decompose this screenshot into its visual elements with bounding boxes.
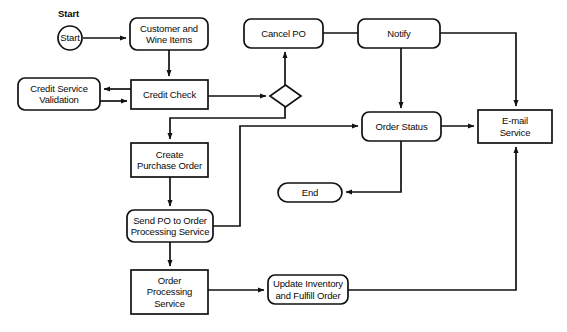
node-customer-and-wine-items[interactable] xyxy=(130,18,208,50)
node-start[interactable] xyxy=(58,26,82,50)
node-decision[interactable] xyxy=(270,85,301,107)
node-create-purchase-order[interactable] xyxy=(131,143,208,177)
node-end[interactable] xyxy=(278,183,342,202)
node-notify[interactable] xyxy=(358,19,440,48)
flowchart-canvas: StartCustomer and Wine ItemsCredit Servi… xyxy=(0,0,567,332)
node-credit-check[interactable] xyxy=(131,80,208,109)
edge-notify-to-email-service xyxy=(440,33,516,106)
node-email-service[interactable] xyxy=(478,110,552,143)
edge-decision-to-create-purchase-order xyxy=(170,107,285,139)
edge-send-po-to-order-status xyxy=(213,126,358,226)
start-label: Start xyxy=(58,8,79,19)
node-order-status[interactable] xyxy=(362,112,441,141)
edge-order-status-to-end xyxy=(346,141,401,192)
node-order-processing-service[interactable] xyxy=(131,270,208,314)
node-send-po-to-order-processing-service[interactable] xyxy=(127,210,213,242)
flowchart-connectors-layer xyxy=(0,0,567,332)
node-cancel-po[interactable] xyxy=(244,19,323,48)
edge-update-inventory-to-email-service xyxy=(348,147,516,290)
node-update-inventory-and-fulfill-order[interactable] xyxy=(268,275,348,304)
node-credit-service-validation[interactable] xyxy=(18,78,100,110)
